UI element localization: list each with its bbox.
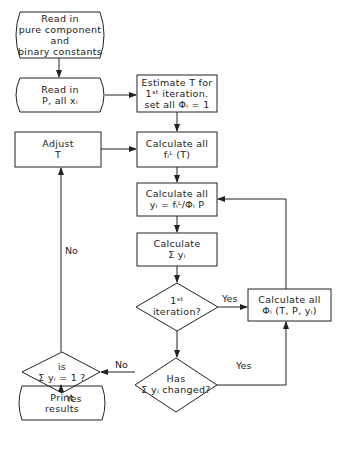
edge-label-has-changed-no: No	[115, 359, 128, 370]
edge-label-is-sum-one-no: No	[65, 245, 78, 256]
node-line: Φᵢ (T, P, yᵢ)	[248, 305, 331, 316]
node-line: Calculate all	[248, 294, 331, 305]
edge-label-first-iter-yes: Yes	[222, 293, 237, 304]
node-line: T	[15, 149, 101, 160]
node-line: Print	[16, 392, 108, 403]
node-line: Read in	[14, 13, 106, 24]
node-print-results: Print results	[16, 392, 108, 414]
node-line: P, all xᵢ	[14, 95, 106, 106]
node-line: and	[14, 35, 106, 46]
node-line: iteration?	[140, 306, 214, 317]
node-estimate-t: Estimate T for 1ˢᵗ iteration. set all Φᵢ…	[137, 77, 217, 110]
node-line: Estimate T for	[137, 77, 217, 88]
node-calc-sum: Calculate Σ yᵢ	[137, 238, 217, 260]
node-line: set all Φᵢ = 1	[137, 99, 217, 110]
node-line: fᵢᴸ (T)	[137, 149, 217, 160]
node-calc-f: Calculate all fᵢᴸ (T)	[137, 138, 217, 160]
node-line: Σ yᵢ changed?	[135, 384, 217, 395]
node-read-constants: Read in pure component and binary consta…	[14, 13, 106, 57]
node-line: Adjust	[15, 138, 101, 149]
node-line: Calculate	[137, 238, 217, 249]
node-line: 1ˢᵗ	[140, 295, 214, 306]
node-line: pure component	[14, 24, 106, 35]
node-line: Calculate all	[137, 188, 217, 199]
node-line: Read in	[14, 84, 106, 95]
node-calc-y: Calculate all yᵢ = fᵢᴸ/Φᵢ P	[137, 188, 217, 210]
node-adjust-t: Adjust T	[15, 138, 101, 160]
node-line: Has	[135, 373, 217, 384]
node-line: yᵢ = fᵢᴸ/Φᵢ P	[137, 199, 217, 210]
node-line: binary constants	[14, 46, 106, 57]
edge-label-is-sum-one-yes: Yes	[66, 393, 81, 404]
node-line: Calculate all	[137, 138, 217, 149]
node-has-changed: Has Σ yᵢ changed?	[135, 373, 217, 395]
node-line: Σ yᵢ = 1 ?	[24, 372, 100, 383]
node-line: is	[24, 361, 100, 372]
node-line: 1ˢᵗ iteration.	[137, 88, 217, 99]
node-line: Σ yᵢ	[137, 249, 217, 260]
node-first-iteration: 1ˢᵗ iteration?	[140, 295, 214, 317]
node-is-sum-one: is Σ yᵢ = 1 ?	[24, 361, 100, 383]
edge-label-has-changed-yes: Yes	[236, 360, 251, 371]
node-read-p-x: Read in P, all xᵢ	[14, 84, 106, 106]
node-line: results	[16, 403, 108, 414]
node-calc-phi: Calculate all Φᵢ (T, P, yᵢ)	[248, 294, 331, 316]
